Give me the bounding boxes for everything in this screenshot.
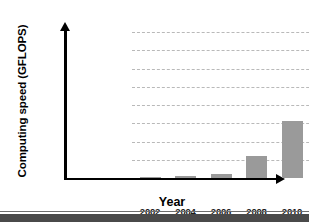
gridline bbox=[132, 50, 309, 51]
bar-2002 bbox=[140, 177, 161, 179]
gridline bbox=[132, 105, 309, 106]
gridline bbox=[132, 69, 309, 70]
gridline bbox=[132, 87, 309, 88]
bottom-rule bbox=[0, 211, 309, 212]
bar-2010 bbox=[282, 121, 303, 178]
bar-2004 bbox=[175, 176, 196, 178]
bottom-band bbox=[0, 214, 309, 222]
x-axis-title: Year bbox=[66, 195, 278, 209]
y-axis-title: Computing speed (GFLOPS) bbox=[16, 16, 28, 186]
bar-chart-figure: Computing speed (GFLOPS) 010,00020,00030… bbox=[0, 0, 309, 222]
bar-2006 bbox=[211, 174, 232, 178]
gridline bbox=[132, 32, 309, 33]
bar-2008 bbox=[246, 156, 267, 178]
plot-area: 010,00020,00030,00040,00050,00060,00070,… bbox=[66, 25, 288, 178]
